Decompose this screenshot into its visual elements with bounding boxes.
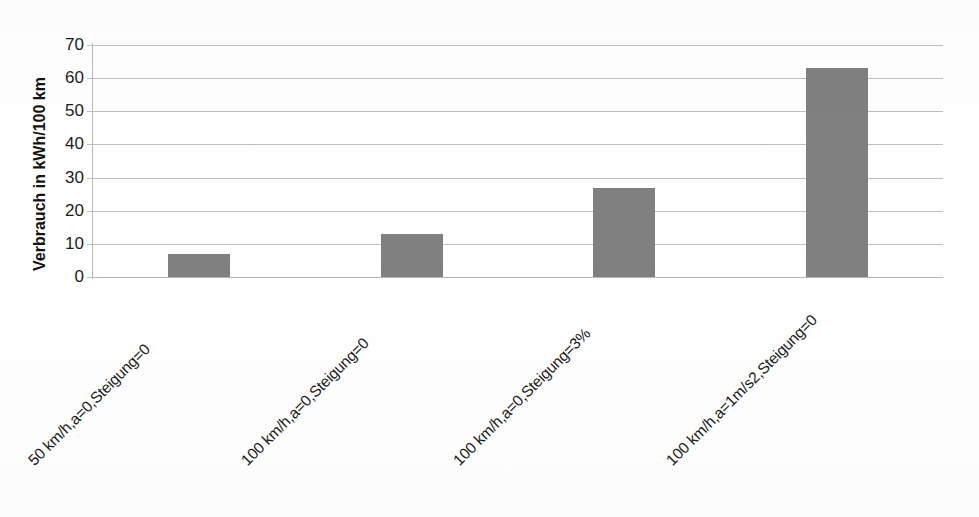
bar-chart: Verbrauch in kWh/100 km 010203040506070 … [0, 0, 979, 517]
y-tick-label: 10 [46, 235, 84, 252]
x-axis-label: 100 km/h,a=0,Steigung=0 [237, 334, 372, 469]
bar [806, 68, 868, 277]
x-axis-category-labels: 50 km/h,a=0,Steigung=0100 km/h,a=0,Steig… [0, 282, 979, 517]
y-tick-label: 50 [46, 102, 84, 119]
y-tick-label: 20 [46, 202, 84, 219]
bar [593, 188, 655, 277]
plot-area [93, 45, 943, 277]
y-tick-label: 60 [46, 69, 84, 86]
y-tick-label: 70 [46, 36, 84, 53]
x-axis-label: 50 km/h,a=0,Steigung=0 [25, 340, 154, 469]
x-axis-label: 100 km/h,a=1m/s2,Steigung=0 [662, 311, 820, 469]
bar [168, 254, 230, 277]
bar-series [93, 45, 943, 277]
x-axis-label: 100 km/h,a=0,Steigung=3% [450, 325, 595, 470]
gridline [93, 277, 943, 278]
bar [381, 234, 443, 277]
y-tick-label: 40 [46, 135, 84, 152]
y-tick-label: 30 [46, 169, 84, 186]
